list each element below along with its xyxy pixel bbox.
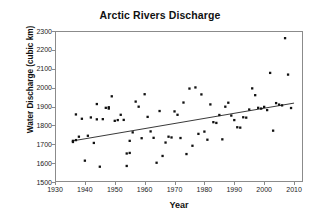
x-axis-ticks: 193019401950196019701980199020002010 bbox=[0, 0, 320, 219]
y-tick-mark bbox=[52, 50, 55, 51]
y-tick-mark bbox=[52, 88, 55, 89]
y-tick-mark bbox=[52, 31, 55, 32]
y-tick-mark bbox=[52, 144, 55, 145]
x-tick-label: 1930 bbox=[40, 186, 70, 193]
y-tick-mark bbox=[52, 125, 55, 126]
x-tick-mark bbox=[234, 182, 235, 185]
x-tick-label: 1940 bbox=[70, 186, 100, 193]
x-tick-mark bbox=[175, 182, 176, 185]
x-tick-mark bbox=[55, 182, 56, 185]
x-tick-mark bbox=[85, 182, 86, 185]
x-tick-label: 2000 bbox=[249, 186, 279, 193]
x-tick-label: 1990 bbox=[219, 186, 249, 193]
x-tick-label: 1980 bbox=[189, 186, 219, 193]
x-tick-label: 2010 bbox=[279, 186, 309, 193]
x-tick-mark bbox=[145, 182, 146, 185]
y-axis-label: Water Discharge (cubic km) bbox=[26, 0, 35, 160]
x-tick-mark bbox=[264, 182, 265, 185]
chart-figure: Arctic Rivers Discharge 1500160017001800… bbox=[0, 0, 320, 219]
x-axis-label: Year bbox=[55, 200, 303, 210]
x-tick-mark bbox=[204, 182, 205, 185]
y-tick-mark bbox=[52, 163, 55, 164]
x-tick-mark bbox=[294, 182, 295, 185]
x-tick-mark bbox=[115, 182, 116, 185]
x-tick-label: 1970 bbox=[160, 186, 190, 193]
x-tick-label: 1960 bbox=[130, 186, 160, 193]
y-tick-mark bbox=[52, 107, 55, 108]
x-tick-label: 1950 bbox=[100, 186, 130, 193]
y-tick-mark bbox=[52, 69, 55, 70]
